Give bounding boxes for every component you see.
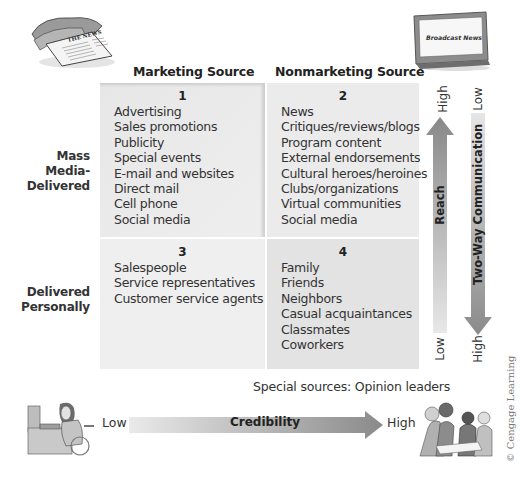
list-item: Social media xyxy=(281,212,419,227)
newspaper-illustration: THE NEWS xyxy=(22,4,122,70)
woman-at-computer-illustration xyxy=(26,400,98,456)
list-item: Neighbors xyxy=(281,291,419,306)
list-item: Advertising xyxy=(114,104,265,119)
two-way-label: Two-Way Communication xyxy=(471,165,485,285)
group-meeting-illustration xyxy=(418,398,496,460)
list-item: Salespeople xyxy=(114,260,265,275)
credibility-high-label: High xyxy=(387,415,416,430)
list-item: Customer service agents xyxy=(114,291,265,306)
list-item: Critiques/reviews/blogs xyxy=(281,119,419,134)
reach-label: Reach xyxy=(433,180,447,230)
quadrant-3-list: Salespeople Service representatives Cust… xyxy=(114,260,265,306)
row-header-mass-media: Mass Media- Delivered xyxy=(20,149,90,194)
list-item: Publicity xyxy=(114,135,265,150)
two-way-high-label: High xyxy=(471,334,485,364)
list-item: Family xyxy=(281,260,419,275)
column-header-marketing: Marketing Source xyxy=(133,64,254,79)
quadrant-2-list: News Critiques/reviews/blogs Program con… xyxy=(281,104,419,227)
list-item: Program content xyxy=(281,135,419,150)
quadrant-4-list: Family Friends Neighbors Casual acquaint… xyxy=(281,260,419,352)
quadrant-3-marketing-personal: 3 Salespeople Service representatives Cu… xyxy=(100,239,265,369)
list-item: Social media xyxy=(114,212,265,227)
quadrant-2-nonmarketing-mass: 2 News Critiques/reviews/blogs Program c… xyxy=(267,83,419,237)
newspaper-icon: THE NEWS xyxy=(22,4,122,70)
reach-high-label: High xyxy=(436,84,450,114)
special-sources-note: Special sources: Opinion leaders xyxy=(253,379,450,394)
list-item: Virtual communities xyxy=(281,196,419,211)
list-item: Friends xyxy=(281,275,419,290)
two-way-low-label: Low xyxy=(471,84,485,114)
list-item: Special events xyxy=(114,150,265,165)
quadrant-1-marketing-mass: 1 Advertising Sales promotions Publicity… xyxy=(100,83,265,237)
tv-illustration: Broadcast News xyxy=(412,10,492,72)
column-header-nonmarketing: Nonmarketing Source xyxy=(275,64,424,79)
list-item: Classmates xyxy=(281,322,419,337)
television-icon: Broadcast News xyxy=(412,10,492,72)
list-item: Casual acquaintances xyxy=(281,306,419,321)
people-meeting-icon xyxy=(418,398,496,460)
list-item: News xyxy=(281,104,419,119)
list-item: Service representatives xyxy=(114,275,265,290)
list-item: E-mail and websites xyxy=(114,166,265,181)
credibility-label: Credibility xyxy=(230,415,300,429)
row-header-personal: Delivered Personally xyxy=(10,285,90,315)
list-item: Cell phone xyxy=(114,196,265,211)
reach-low-label: Low xyxy=(433,334,447,364)
quadrant-number: 1 xyxy=(114,89,265,103)
quadrant-1-list: Advertising Sales promotions Publicity S… xyxy=(114,104,265,227)
quadrant-number: 2 xyxy=(281,89,419,103)
copyright-notice: © Cengage Learning xyxy=(505,363,516,463)
list-item: Cultural heroes/heroines xyxy=(281,166,419,181)
credibility-low-label: Low xyxy=(102,415,127,430)
quadrant-number: 3 xyxy=(114,245,265,259)
quadrant-4-nonmarketing-personal: 4 Family Friends Neighbors Casual acquai… xyxy=(267,239,419,369)
list-item: Sales promotions xyxy=(114,119,265,134)
list-item: Coworkers xyxy=(281,337,419,352)
list-item: Clubs/organizations xyxy=(281,181,419,196)
list-item: Direct mail xyxy=(114,181,265,196)
list-item: External endorsements xyxy=(281,150,419,165)
person-computer-icon xyxy=(26,400,98,456)
quadrant-number: 4 xyxy=(281,245,419,259)
svg-text:Broadcast News: Broadcast News xyxy=(426,34,482,41)
